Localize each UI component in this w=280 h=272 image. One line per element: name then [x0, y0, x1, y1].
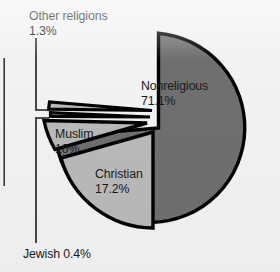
slice-label-nonreligious-name: Nonreligious: [141, 79, 208, 94]
slice-label-nonreligious-value: 71.1%: [141, 94, 208, 109]
slice-label-christian: Christian 17.2%: [95, 167, 143, 196]
slice-label-christian-name: Christian: [95, 167, 143, 182]
slice-label-jewish-text: Jewish 0.4%: [23, 247, 91, 261]
slice-label-muslim-value: 10%: [55, 142, 93, 157]
slice-label-jewish: Jewish 0.4%: [23, 247, 91, 261]
slice-label-muslim: Muslim 10%: [55, 127, 93, 156]
slice-label-muslim-name: Muslim: [55, 127, 93, 142]
pie-chart-graphic: [0, 0, 280, 272]
slice-label-nonreligious: Nonreligious 71.1%: [141, 79, 208, 108]
slice-label-other-religions-value: 1.3%: [29, 24, 107, 39]
pie-slice-other-religions[interactable]: [49, 102, 152, 111]
slice-label-other-religions-name: Other religions: [29, 9, 107, 24]
pie-chart-figure: Other religions 1.3% Nonreligious 71.1% …: [0, 0, 280, 272]
slice-label-other-religions: Other religions 1.3%: [29, 9, 107, 38]
leader-line-other-religions: [36, 38, 49, 110]
slice-label-christian-value: 17.2%: [95, 182, 143, 197]
pie-slice-jewish[interactable]: [51, 113, 151, 117]
